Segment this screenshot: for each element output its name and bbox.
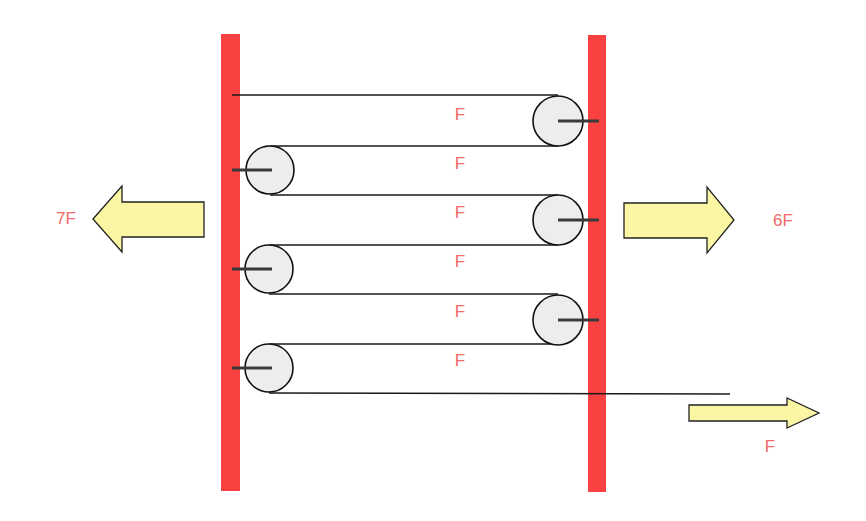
left-wall-force-label: 7F <box>56 210 76 227</box>
left-wall <box>221 34 240 491</box>
rope-tension-label: F <box>455 253 465 270</box>
rope-pull-force-label: F <box>765 438 775 455</box>
arrow-right-small-icon <box>689 398 819 428</box>
right-wall-force-label: 6F <box>773 212 793 229</box>
rope-tension-label: F <box>455 204 465 221</box>
rope-tension-label: F <box>455 352 465 369</box>
rope <box>232 95 730 394</box>
left-pulley-3 <box>232 344 293 392</box>
right-wall <box>588 35 606 492</box>
rope-tension-label: F <box>455 155 465 172</box>
rope-tension-label: F <box>455 106 465 123</box>
left-pulley-2 <box>232 245 293 293</box>
arrow-right-icon <box>624 187 734 253</box>
pulley-diagram <box>0 0 866 521</box>
rope-tension-label: F <box>455 303 465 320</box>
arrow-left-icon <box>93 186 204 252</box>
left-pulley-1 <box>232 146 294 194</box>
